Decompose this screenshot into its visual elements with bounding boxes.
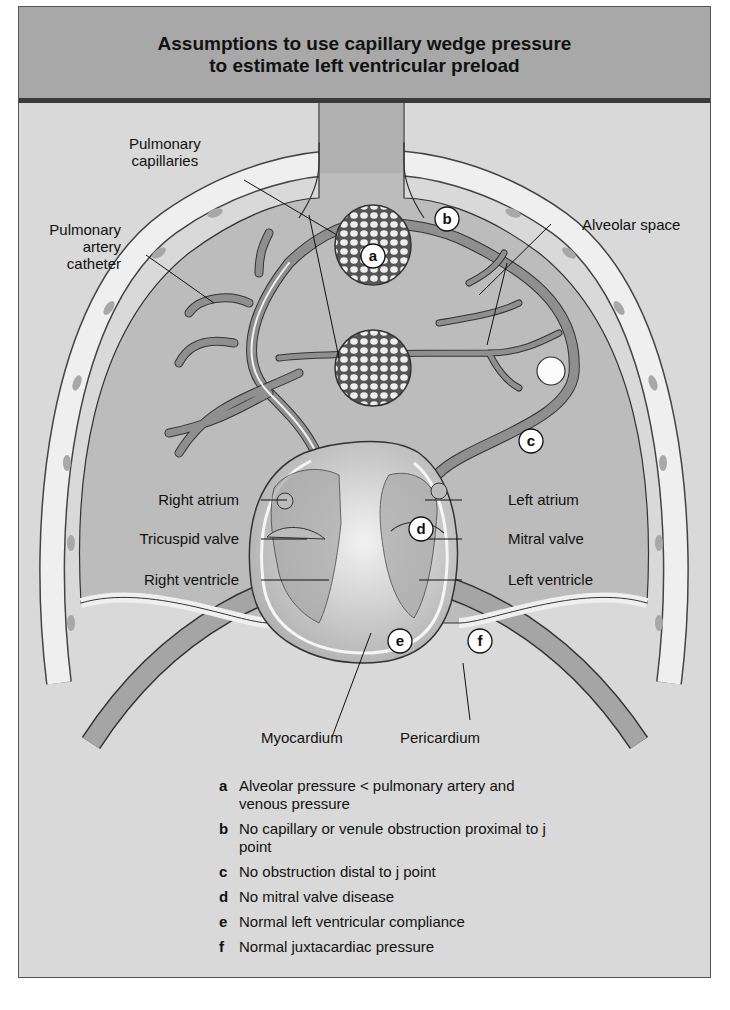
- legend-text: Normal left ventricular compliance: [239, 913, 699, 931]
- figure-panel: Assumptions to use capillary wedge press…: [18, 6, 711, 978]
- marker-f: f: [468, 629, 492, 653]
- legend-item-b: b No capillary or venule obstruction pro…: [219, 820, 699, 856]
- marker-d: d: [409, 517, 433, 541]
- legend-item-f: f Normal juxtacardiac pressure: [219, 938, 699, 956]
- legend-key: e: [219, 913, 239, 931]
- marker-a: a: [361, 244, 385, 268]
- title-line-1: Assumptions to use capillary wedge press…: [19, 33, 710, 55]
- label-myocardium: Myocardium: [261, 729, 343, 746]
- label-left-atrium: Left atrium: [508, 491, 579, 508]
- svg-text:a: a: [369, 247, 378, 264]
- marker-e: e: [388, 629, 412, 653]
- legend-key: d: [219, 888, 239, 906]
- j-point-balloon: [537, 357, 565, 385]
- legend-item-c: c No obstruction distal to j point: [219, 863, 699, 881]
- assumptions-legend: a Alveolar pressure < pulmonary artery a…: [219, 777, 699, 963]
- svg-text:b: b: [442, 210, 451, 227]
- figure-title: Assumptions to use capillary wedge press…: [19, 33, 710, 77]
- svg-text:d: d: [416, 520, 425, 537]
- label-left-ventricle: Left ventricle: [508, 571, 593, 588]
- svg-text:e: e: [396, 632, 404, 649]
- label-right-ventricle: Right ventricle: [99, 571, 239, 588]
- label-line: artery: [19, 238, 121, 255]
- label-right-atrium: Right atrium: [99, 491, 239, 508]
- legend-item-d: d No mitral valve disease: [219, 888, 699, 906]
- legend-key: a: [219, 777, 239, 813]
- label-tricuspid-valve: Tricuspid valve: [99, 530, 239, 547]
- label-line: catheter: [19, 255, 121, 272]
- legend-text: No capillary or venule obstruction proxi…: [239, 820, 569, 856]
- legend-text: Alveolar pressure < pulmonary artery and…: [239, 777, 539, 813]
- svg-text:c: c: [527, 432, 535, 449]
- label-line: Pulmonary: [19, 221, 121, 238]
- capillary-bed-lower: [335, 330, 411, 406]
- label-pulmonary-capillaries: Pulmonary capillaries: [129, 135, 201, 169]
- label-pulmonary-artery-catheter: Pulmonary artery catheter: [19, 221, 121, 272]
- label-pericardium: Pericardium: [400, 729, 480, 746]
- label-mitral-valve: Mitral valve: [508, 530, 584, 547]
- legend-text: No obstruction distal to j point: [239, 863, 699, 881]
- legend-item-a: a Alveolar pressure < pulmonary artery a…: [219, 777, 699, 813]
- thorax-heart-illustration: a b c d e f: [19, 103, 712, 763]
- legend-key: b: [219, 820, 239, 856]
- legend-key: c: [219, 863, 239, 881]
- legend-key: f: [219, 938, 239, 956]
- marker-b: b: [435, 207, 459, 231]
- heart: [249, 441, 457, 663]
- legend-text: Normal juxtacardiac pressure: [239, 938, 699, 956]
- figure-header: Assumptions to use capillary wedge press…: [19, 7, 710, 103]
- marker-c: c: [519, 429, 543, 453]
- legend-text: No mitral valve disease: [239, 888, 699, 906]
- title-line-2: to estimate left ventricular preload: [19, 55, 710, 77]
- label-line: Pulmonary: [129, 135, 201, 152]
- label-line: capillaries: [129, 152, 201, 169]
- label-alveolar-space: Alveolar space: [582, 216, 680, 233]
- legend-item-e: e Normal left ventricular compliance: [219, 913, 699, 931]
